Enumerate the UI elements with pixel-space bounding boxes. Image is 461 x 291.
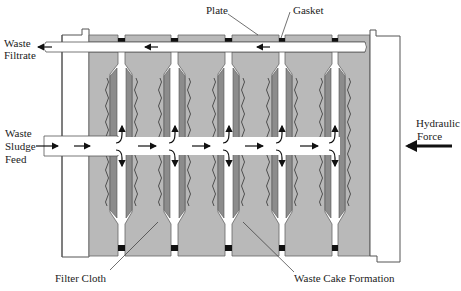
right-end-frame [370,30,400,262]
waste-filtrate-label-line2: Filtrate [4,49,36,61]
filter-press-diagram [0,0,461,291]
waste-sludge-feed-label-line3: Feed [5,153,26,165]
waste-sludge-feed-label-line1: Waste [5,127,32,139]
waste-cake-formation-label: Waste Cake Formation [294,272,395,284]
gasket-label: Gasket [293,4,324,16]
waste-sludge-feed-label-line2: Sludge [5,140,36,152]
hydraulic-force-label-line1: Hydraulic [416,117,460,129]
feed-pipe [36,136,340,156]
hydraulic-force-label-line2: Force [417,130,442,142]
waste-filtrate-label-line1: Waste [4,37,31,49]
filter-cloth-label: Filter Cloth [55,272,106,284]
plate-label: Plate [206,4,228,16]
filtrate-pipe [38,42,367,52]
